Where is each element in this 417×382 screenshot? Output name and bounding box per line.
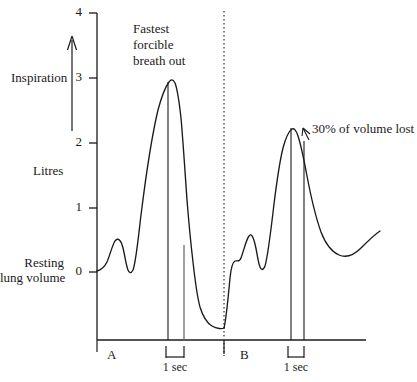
- section-label-b: B: [240, 348, 249, 363]
- interval-bracket-b: [288, 346, 304, 358]
- y-tick-label-4: 4: [68, 5, 82, 20]
- y-tick-label-2: 2: [68, 135, 82, 150]
- trace-a-curve: [97, 80, 224, 329]
- inspiration-label: Inspiration: [11, 71, 67, 86]
- interval-label-a: 1 sec: [150, 361, 200, 374]
- interval-label-b: 1 sec: [271, 361, 321, 374]
- peak-a-annotation-line1: Fastest: [133, 22, 169, 37]
- y-tick-label-1: 1: [68, 200, 82, 215]
- peak-a-annotation-line2: forcible: [133, 38, 173, 53]
- trace-b-curve: [224, 129, 380, 328]
- section-label-a: A: [107, 348, 116, 363]
- interval-bracket-a: [166, 346, 184, 358]
- chart-canvas: [0, 0, 417, 382]
- y-axis-title: Litres: [33, 164, 63, 179]
- peak-a-annotation-line3: breath out: [133, 54, 185, 69]
- resting-volume-label-line2: lung volume: [0, 271, 64, 286]
- spirometry-figure: 4 3 2 1 0 Inspiration Litres Resting lun…: [0, 0, 417, 382]
- volume-lost-arrow-icon: [302, 128, 310, 140]
- peak-b-annotation: 30% of volume lost: [312, 122, 414, 137]
- y-tick-label-3: 3: [68, 70, 82, 85]
- y-tick-label-0: 0: [68, 264, 82, 279]
- resting-volume-label-line1: Resting: [0, 256, 64, 271]
